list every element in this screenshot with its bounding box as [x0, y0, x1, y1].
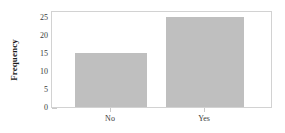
y-axis-tick-mark: [52, 108, 57, 109]
x-axis-tick-label: No: [80, 114, 140, 123]
x-axis-tick-mark: [110, 108, 111, 112]
y-axis-tick-label: 5: [18, 84, 48, 95]
bar-no: [75, 53, 147, 107]
y-axis-tick-label: 10: [18, 66, 48, 77]
plot-area: [51, 11, 272, 108]
bar-yes: [166, 17, 244, 107]
x-axis-tick-mark: [204, 108, 205, 112]
bar-chart: Frequency 0510152025 NoYes: [0, 0, 285, 133]
y-axis-tick-label: 25: [18, 12, 48, 23]
y-axis-tick-label: 15: [18, 48, 48, 59]
y-axis-tick-label: 20: [18, 30, 48, 41]
x-axis-tick-label: Yes: [174, 114, 234, 123]
y-axis-tick-label: 0: [18, 102, 48, 113]
